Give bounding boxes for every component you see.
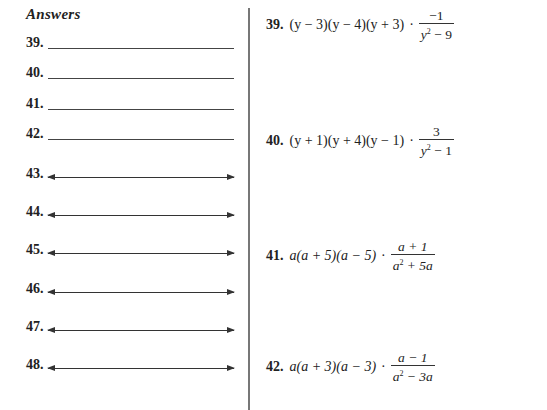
number-line-row-48[interactable]: 48.: [26, 355, 236, 375]
problem-42: 42. a(a + 3)(a − 3) · a − 1 a2 − 3a: [266, 350, 435, 384]
problem-factors: a(a + 5)(a − 5): [290, 248, 377, 264]
fraction-denominator: y2 − 9: [419, 24, 454, 42]
column-divider: [248, 8, 250, 410]
number-line-row-47[interactable]: 47.: [26, 317, 236, 337]
problem-factors: (y − 3)(y − 4)(y + 3): [290, 17, 405, 33]
fraction-numerator: 3: [431, 124, 442, 139]
fraction: a − 1 a2 − 3a: [391, 350, 435, 384]
fraction-denominator: a2 − 3a: [391, 366, 435, 384]
answer-number: 40.: [26, 65, 44, 81]
problem-factors: (y + 1)(y + 4)(y − 1): [290, 133, 405, 149]
answer-blank-line[interactable]: [48, 78, 234, 79]
times-dot: ·: [381, 248, 386, 264]
problem-number: 41.: [266, 248, 284, 264]
number-line-arrow-icon[interactable]: [48, 368, 234, 369]
answer-number: 44.: [26, 204, 44, 220]
number-line-arrow-icon[interactable]: [48, 177, 234, 178]
answer-blank-line[interactable]: [48, 109, 234, 110]
number-line-arrow-icon[interactable]: [48, 215, 234, 216]
times-dot: ·: [381, 359, 386, 375]
answer-row-41[interactable]: 41.: [26, 94, 236, 114]
number-line-row-44[interactable]: 44.: [26, 202, 236, 222]
fraction-numerator: −1: [427, 8, 445, 23]
number-line-arrow-icon[interactable]: [48, 292, 234, 293]
problem-39: 39. (y − 3)(y − 4)(y + 3) · −1 y2 − 9: [266, 8, 454, 42]
problem-41: 41. a(a + 5)(a − 5) · a + 1 a2 + 5a: [266, 239, 435, 273]
answer-number: 42.: [26, 126, 44, 142]
problem-number: 40.: [266, 133, 284, 149]
times-dot: ·: [409, 133, 414, 149]
fraction-numerator: a − 1: [396, 350, 429, 365]
answer-row-39[interactable]: 39.: [26, 33, 236, 53]
answer-number: 43.: [26, 166, 44, 182]
fraction-denominator: y2 − 1: [419, 140, 454, 158]
answer-number: 48.: [26, 357, 44, 373]
answer-row-40[interactable]: 40.: [26, 63, 236, 83]
answer-number: 47.: [26, 319, 44, 335]
answer-blank-line[interactable]: [48, 48, 234, 49]
problem-factors: a(a + 3)(a − 3): [290, 359, 377, 375]
times-dot: ·: [409, 17, 414, 33]
answer-number: 45.: [26, 242, 44, 258]
answer-number: 39.: [26, 35, 44, 51]
fraction: a + 1 a2 + 5a: [391, 239, 435, 273]
answer-number: 41.: [26, 96, 44, 112]
number-line-row-46[interactable]: 46.: [26, 279, 236, 299]
problem-number: 42.: [266, 359, 284, 375]
answer-blank-line[interactable]: [48, 139, 234, 140]
problem-40: 40. (y + 1)(y + 4)(y − 1) · 3 y2 − 1: [266, 124, 454, 158]
fraction-denominator: a2 + 5a: [391, 255, 435, 273]
answer-number: 46.: [26, 281, 44, 297]
number-line-row-43[interactable]: 43.: [26, 164, 236, 184]
fraction: 3 y2 − 1: [419, 124, 454, 158]
answer-row-42[interactable]: 42.: [26, 124, 236, 144]
answers-heading: Answers: [26, 6, 81, 23]
number-line-arrow-icon[interactable]: [48, 330, 234, 331]
fraction-numerator: a + 1: [396, 239, 429, 254]
number-line-arrow-icon[interactable]: [48, 253, 234, 254]
fraction: −1 y2 − 9: [419, 8, 454, 42]
problem-number: 39.: [266, 17, 284, 33]
number-line-row-45[interactable]: 45.: [26, 240, 236, 260]
